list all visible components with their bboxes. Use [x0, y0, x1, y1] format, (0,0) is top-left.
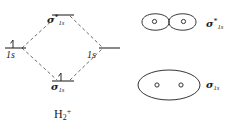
nucleus-right-antibonding [181, 19, 185, 23]
label-sigma-star-1s-level: σ*1s [47, 14, 64, 27]
subscript-shape-bonding: 1s [213, 84, 219, 91]
mo-diagram-figure: σ*1s 1s 1s σ1s H2+ σ*1s σ1s [0, 0, 238, 131]
nucleus-left-antibonding [152, 19, 156, 23]
label-1s-right: 1s [87, 50, 96, 60]
correlation-line-right-up [70, 16, 103, 48]
label-sigma-star-1s-shape: σ*1s [206, 18, 223, 31]
nucleus-right-bonding [179, 83, 183, 87]
label-sigma-1s-level: σ1s [51, 82, 64, 93]
antibonding-lobe-left [142, 14, 169, 30]
electron-arrow-sigma-bonding [59, 73, 61, 81]
orbital-text-1s-left: 1s [6, 49, 15, 60]
molecule-element-symbol: H [54, 107, 63, 121]
bonding-orbital-shape [138, 70, 200, 100]
antibonding-orbital-shape [142, 14, 196, 30]
label-sigma-1s-shape: σ1s [206, 80, 219, 91]
electron-arrow-1s-left [11, 40, 13, 48]
label-1s-left: 1s [6, 50, 15, 60]
nucleus-left-bonding [155, 83, 159, 87]
molecule-charge: + [67, 107, 71, 116]
bonding-lobe [138, 70, 200, 100]
antibonding-lobe-right [169, 14, 196, 30]
subscript-antibonding: 1s [58, 19, 64, 26]
orbital-shape-illustrations [138, 14, 200, 100]
molecule-formula-label: H2+ [54, 108, 71, 122]
figure-canvas [0, 0, 238, 131]
correlation-line-left-down [22, 48, 57, 80]
subscript-bonding: 1s [58, 86, 64, 93]
orbital-text-1s-right: 1s [87, 49, 96, 60]
subscript-shape-antibonding: 1s [217, 23, 223, 30]
